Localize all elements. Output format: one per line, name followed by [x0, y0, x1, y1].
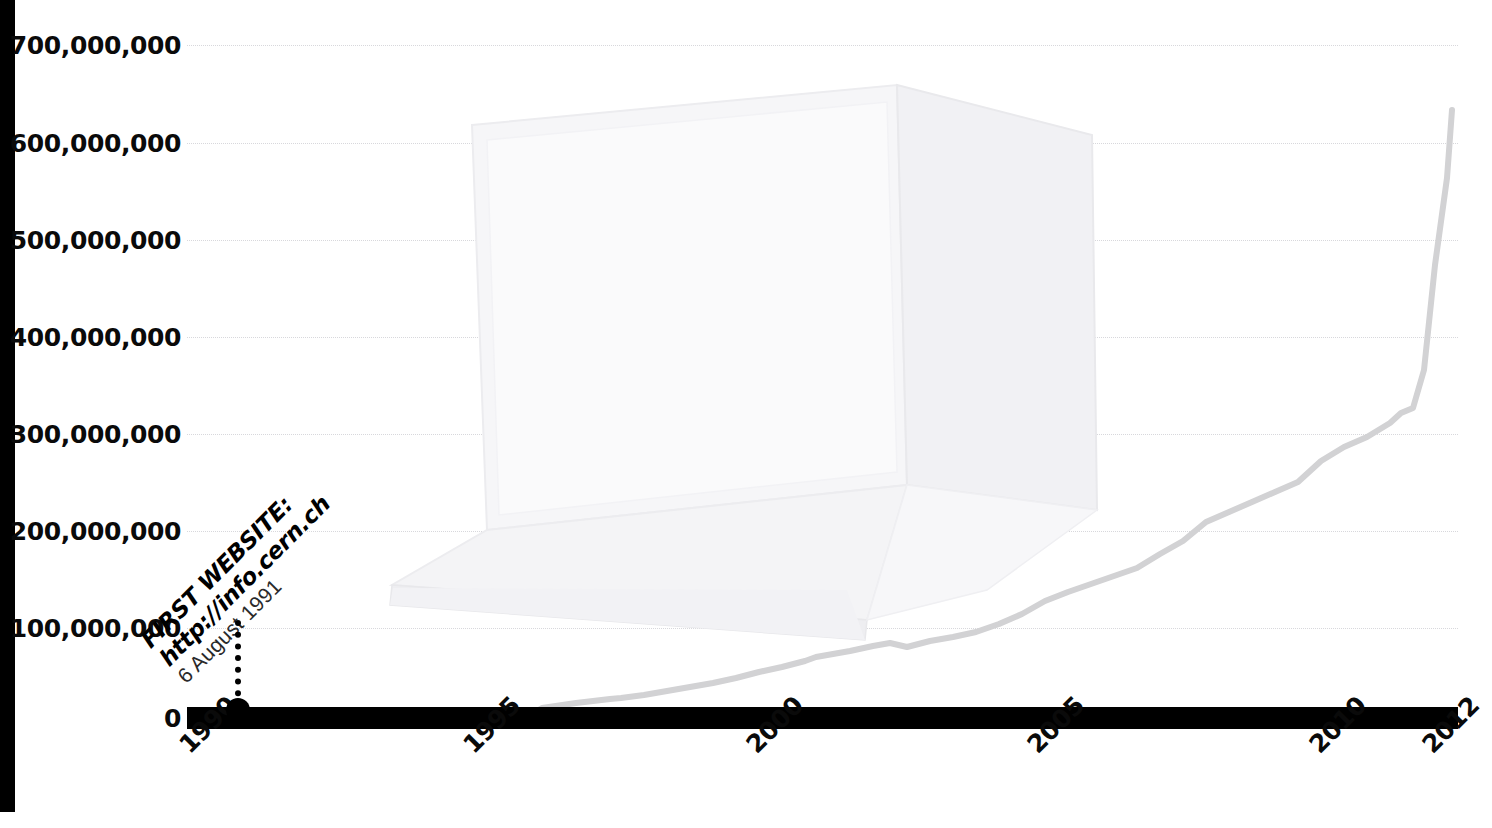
x-axis-bar: [187, 707, 1458, 729]
first-website-marker-dot: [226, 698, 250, 722]
ytick-300m: 300,000,000: [10, 422, 181, 447]
bottom-strip: [0, 812, 1492, 828]
chart-page: Since 1991, the number of websites has g…: [0, 0, 1492, 828]
ytick-500m: 500,000,000: [10, 228, 181, 253]
ytick-600m: 600,000,000: [10, 131, 181, 156]
left-black-rail: [0, 0, 15, 828]
ytick-0: 0: [164, 706, 181, 731]
ytick-400m: 400,000,000: [10, 325, 181, 350]
annotation-leader-line: [235, 620, 241, 708]
websites-line-series: [187, 20, 1458, 720]
plot-area: [187, 20, 1458, 720]
ytick-200m: 200,000,000: [10, 519, 181, 544]
ytick-700m: 700,000,000: [10, 33, 181, 58]
